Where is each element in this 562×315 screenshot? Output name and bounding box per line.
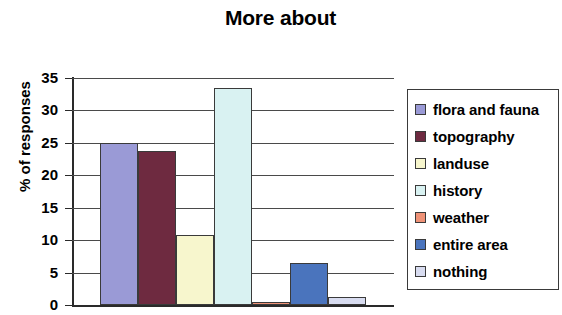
legend-label: weather: [433, 209, 489, 226]
plot-area: [72, 78, 394, 305]
legend-swatch-icon: [415, 104, 426, 115]
legend-label: entire area: [433, 236, 508, 253]
y-tick-label-0: 0: [18, 297, 58, 312]
legend-item-entire-area[interactable]: entire area: [415, 231, 558, 258]
legend-item-landuse[interactable]: landuse: [415, 150, 558, 177]
bar-entire-area: [290, 263, 328, 305]
legend-item-flora-and-fauna[interactable]: flora and fauna: [415, 96, 558, 123]
bar-topography: [138, 151, 176, 305]
gridline-35: [72, 78, 394, 79]
bar-landuse: [176, 235, 214, 305]
legend-swatch-icon: [415, 158, 426, 169]
legend-swatch-icon: [415, 212, 426, 223]
legend-item-weather[interactable]: weather: [415, 204, 558, 231]
legend-label: nothing: [433, 263, 487, 280]
legend-item-nothing[interactable]: nothing: [415, 258, 558, 285]
chart-title: More about: [0, 6, 562, 30]
y-tick-label-25: 25: [18, 135, 58, 150]
legend-item-history[interactable]: history: [415, 177, 558, 204]
gridline-0: [72, 305, 394, 307]
y-tick-label-30: 30: [18, 102, 58, 117]
y-tick-label-5: 5: [18, 265, 58, 280]
legend-swatch-icon: [415, 131, 426, 142]
legend-label: history: [433, 182, 482, 199]
legend-swatch-icon: [415, 239, 426, 250]
y-tick-label-20: 20: [18, 167, 58, 182]
chart-legend: flora and faunatopographylandusehistoryw…: [407, 89, 559, 290]
y-tick-label-15: 15: [18, 200, 58, 215]
legend-swatch-icon: [415, 185, 426, 196]
legend-label: flora and fauna: [433, 101, 539, 118]
legend-swatch-icon: [415, 266, 426, 277]
legend-label: topography: [433, 128, 515, 145]
bar-weather: [252, 302, 290, 305]
y-tick-label-35: 35: [18, 70, 58, 85]
legend-item-topography[interactable]: topography: [415, 123, 558, 150]
legend-label: landuse: [433, 155, 489, 172]
bar-history: [214, 88, 252, 305]
bar-flora-and-fauna: [100, 143, 138, 305]
y-tick-label-10: 10: [18, 232, 58, 247]
bar-nothing: [328, 297, 366, 305]
bar-chart: More about % of responses 35302520151050…: [0, 0, 562, 315]
